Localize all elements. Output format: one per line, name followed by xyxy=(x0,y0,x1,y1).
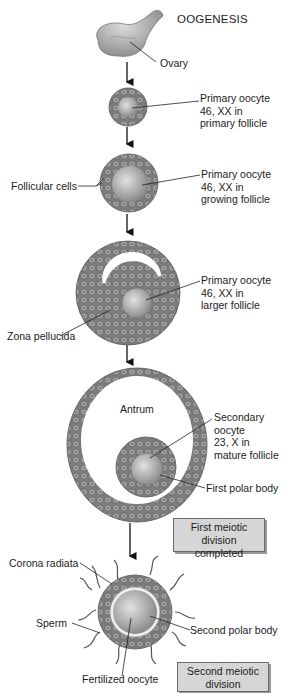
antrum-label: Antrum xyxy=(120,403,154,416)
mature-follicle xyxy=(67,368,207,522)
growing-follicle xyxy=(100,154,158,212)
zona-pellucida-label: Zona pellucida xyxy=(7,330,75,343)
corona-radiata-label: Corona radiata xyxy=(9,557,78,570)
second-polar-body-label: Second polar body xyxy=(190,624,278,637)
larger-follicle xyxy=(76,241,180,345)
second-meiotic-box: Second meiotic division completed xyxy=(177,662,269,692)
mature-follicle-label: Secondary oocyte 23, X in mature follicl… xyxy=(214,411,279,461)
larger-follicle-label: Primary oocyte 46, XX in larger follicle xyxy=(201,274,271,312)
growing-follicle-label: Primary oocyte 46, XX in growing follicl… xyxy=(201,168,271,206)
ovary-illustration xyxy=(97,10,163,56)
follicular-cells-label: Follicular cells xyxy=(11,180,77,193)
first-polar-body-label: First polar body xyxy=(206,482,278,495)
sperm-label: Sperm xyxy=(36,617,67,630)
diagram-title: OOGENESIS xyxy=(177,13,248,26)
primary-follicle-label: Primary oocyte 46, XX in primary follicl… xyxy=(200,92,270,130)
first-meiotic-box: First meiotic division completed xyxy=(173,518,265,552)
fertilized-oocyte-label: Fertilized oocyte xyxy=(82,673,158,686)
ovary-label: Ovary xyxy=(160,57,188,70)
